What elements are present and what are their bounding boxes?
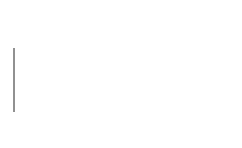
cylinder-body [14, 0, 221, 112]
pin-diode-diagram [0, 0, 242, 148]
